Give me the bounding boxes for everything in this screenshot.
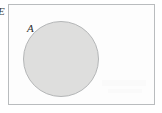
universal-set-label: E xyxy=(0,5,9,18)
set-a-label: A xyxy=(27,22,34,34)
venn-diagram: E A xyxy=(0,0,162,113)
set-a-circle xyxy=(23,21,99,97)
